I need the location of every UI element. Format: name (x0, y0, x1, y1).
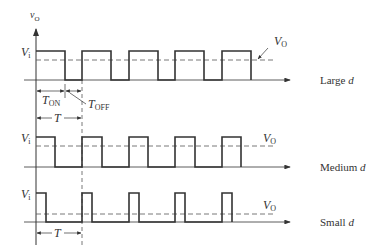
pulse-waveform (36, 137, 241, 167)
t-off-label: TOFF (88, 97, 110, 112)
pulse-waveform (36, 51, 251, 80)
vo-label: VO (263, 131, 276, 146)
pwm-waveform-diagram: vO Vi VO Large d TON TOFF T Vi VO Medium… (0, 0, 380, 251)
timing-annotations: TON TOFF T (37, 84, 110, 125)
vi-label: Vi (21, 131, 31, 146)
panel-large-d: Vi VO Large d (21, 34, 354, 86)
t-off-pointer (70, 93, 86, 104)
caption-large-d: Large d (320, 74, 354, 86)
vi-label: Vi (21, 187, 31, 202)
caption-medium-d: Medium d (320, 161, 366, 173)
caption-small-d: Small d (320, 216, 354, 228)
axis-label-vo: vO (30, 9, 40, 23)
vo-label: VO (274, 34, 287, 49)
vo-label: VO (263, 198, 276, 213)
t-on-label: TON (42, 93, 60, 108)
vo-pointer (258, 48, 268, 59)
panel-medium-d: Vi VO Medium d (21, 131, 366, 173)
panel-small-d: Vi VO Small d T (21, 187, 354, 240)
pulse-waveform (36, 193, 232, 222)
vi-label: Vi (21, 45, 31, 60)
